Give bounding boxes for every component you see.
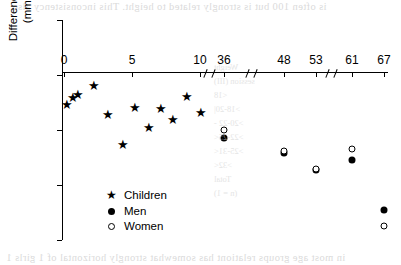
y-tick: [57, 75, 62, 76]
axis-break-mark: [205, 69, 219, 78]
x-tick: [284, 72, 285, 77]
data-point-men: [381, 206, 388, 213]
data-point-children: ★: [72, 89, 83, 100]
legend-label-men: Men: [124, 204, 146, 220]
x-tick-label: 67: [367, 54, 401, 66]
data-point-children: ★: [195, 107, 206, 118]
data-point-women: [313, 165, 320, 172]
y-axis-title-line-1: Difference in systolic blood pressure: [6, 0, 20, 48]
y-tick: [57, 240, 62, 241]
x-tick-label: 53: [299, 54, 333, 66]
legend-label-children: Children: [124, 188, 167, 204]
x-tick: [132, 72, 133, 77]
page-bleed-top-text: is often 100 but is strongly related to …: [12, 1, 327, 12]
star-icon: ★: [104, 188, 118, 204]
x-tick-label: 61: [335, 54, 369, 66]
x-tick: [224, 72, 225, 77]
legend-item-men: Men: [104, 204, 167, 220]
y-tick: [57, 20, 62, 21]
data-point-women: [281, 147, 288, 154]
x-tick: [200, 72, 201, 77]
scatter-plot-figure: is often 100 but is strongly related to …: [0, 0, 401, 265]
legend-label-women: Women: [124, 219, 163, 235]
data-point-children: ★: [102, 108, 113, 119]
data-point-children: ★: [143, 122, 154, 133]
y-axis-title: Difference in systolic blood pressure (m…: [6, 0, 34, 48]
x-tick: [64, 72, 65, 77]
legend-item-women: Women: [104, 219, 167, 235]
x-tick: [352, 72, 353, 77]
y-axis-title-line-2: (mmHg) per kg of birthweight: [20, 0, 34, 48]
page-bleed-bottom-text: in most age groups relationt has somewha…: [6, 252, 345, 263]
plot-area: Difference in systolic blood pressure (m…: [62, 20, 388, 240]
data-point-women: [349, 146, 356, 153]
filled-circle-icon: [104, 204, 118, 220]
y-tick: [57, 130, 62, 131]
x-tick-label: 48: [267, 54, 301, 66]
data-point-children: ★: [117, 138, 128, 149]
data-point-children: ★: [129, 101, 140, 112]
data-point-children: ★: [88, 79, 99, 90]
legend: ★ Children Men Women: [104, 188, 167, 235]
x-tick-label: 5: [115, 54, 149, 66]
x-tick-label: 36: [207, 54, 241, 66]
data-point-men: [221, 135, 228, 142]
data-point-women: [221, 127, 228, 134]
data-point-men: [349, 157, 356, 164]
data-point-children: ★: [167, 114, 178, 125]
open-circle-icon: [104, 219, 118, 235]
data-point-women: [381, 223, 388, 230]
data-point-children: ★: [181, 90, 192, 101]
x-tick-label: 0: [47, 54, 81, 66]
axis-break-mark: [327, 69, 341, 78]
y-tick: [57, 185, 62, 186]
x-tick: [384, 72, 385, 77]
data-point-children: ★: [155, 103, 166, 114]
axis-break-mark: [247, 69, 261, 78]
legend-item-children: ★ Children: [104, 188, 167, 204]
x-tick: [316, 72, 317, 77]
